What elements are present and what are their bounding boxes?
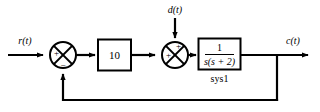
plant-denominator: s(s + 2) (204, 56, 236, 68)
disturbance-sum-left-plus-sign: + (166, 50, 171, 60)
error-sum-minus-sign: − (60, 60, 65, 70)
reference-input-label: r(t) (18, 35, 32, 47)
plant-name-label: sys1 (211, 73, 229, 84)
gain-block-label: 10 (109, 49, 121, 61)
output-label: c(t) (286, 35, 301, 47)
block-diagram-svg: r(t) + − 10 d(t) (0, 0, 320, 112)
plant-numerator: 1 (217, 42, 222, 53)
disturbance-sum-top-plus-sign: + (176, 41, 181, 51)
block-diagram-canvas: r(t) + − 10 d(t) (0, 0, 320, 112)
error-sum-plus-sign: + (54, 48, 59, 58)
disturbance-input-label: d(t) (168, 4, 183, 16)
